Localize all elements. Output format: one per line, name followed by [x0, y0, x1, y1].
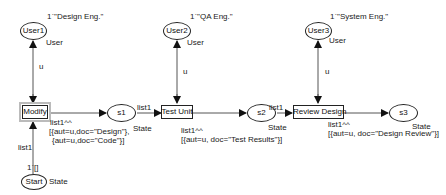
arc-label-u-3: u: [325, 67, 329, 76]
arc-label-test-s2-2: [{aut=u, doc="Test Results"}]: [181, 135, 282, 144]
place-start-type: State: [49, 177, 68, 186]
arc-label-review-s3-2: [{aut=u, doc="Design Review"}]: [328, 129, 439, 138]
place-user3-label: User3: [305, 26, 332, 36]
place-user2-marking: 1`"QA Eng.": [190, 12, 233, 21]
place-s1-type: State: [133, 124, 152, 133]
place-user3-type: User: [329, 36, 346, 45]
transition-review-design-label: Review Design: [293, 107, 344, 117]
place-user1-label: User1: [20, 26, 47, 36]
arc-label-modify-s1-3: {aut=u,doc="Code"}]: [52, 136, 124, 145]
arc-layer: [0, 0, 446, 195]
place-start-marking: 1`[]: [27, 163, 39, 172]
arc-label-u-2: u: [183, 67, 187, 76]
place-s1-label: s1: [107, 108, 136, 118]
place-start-label: Start: [21, 177, 47, 187]
place-s3-label: s3: [389, 108, 418, 118]
arc-label-test-s2-1: list1^^: [181, 126, 203, 135]
arc-label-u-1: u: [39, 62, 43, 71]
place-user2-type: User: [187, 38, 204, 47]
place-s2-type: State: [268, 123, 287, 132]
arc-label-start-modify: list1: [18, 143, 32, 152]
arc-label-modify-s1-2: [{aut=u,doc="Design"},: [49, 127, 129, 136]
place-user3-marking: 1`"System Eng.": [330, 12, 388, 21]
place-user1-marking: 1`"Design Eng.": [47, 12, 103, 21]
transition-modify-label: Modify: [22, 107, 48, 117]
arc-label-s2-review: list1: [269, 103, 283, 112]
arc-label-s1-test: list1: [137, 103, 151, 112]
arc-label-modify-s1-1: list1^^: [50, 118, 72, 127]
place-user1-type: User: [46, 38, 63, 47]
arc-label-review-s3-1: list1^^: [328, 120, 350, 129]
transition-test-unit-label: Test Unit: [161, 107, 193, 117]
place-user2-label: User2: [163, 26, 191, 36]
